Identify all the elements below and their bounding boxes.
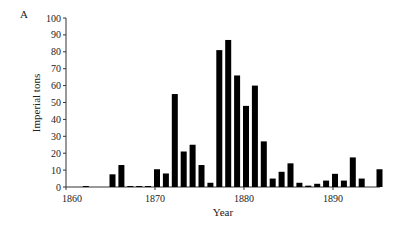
bar bbox=[118, 165, 124, 187]
bar bbox=[377, 169, 383, 187]
bar bbox=[296, 183, 302, 187]
bar bbox=[234, 75, 240, 187]
y-tick-label: 70 bbox=[51, 63, 61, 74]
bar bbox=[216, 50, 222, 187]
bar bbox=[359, 179, 365, 187]
bar bbox=[314, 184, 320, 187]
x-axis: 1860187018801890 bbox=[62, 187, 380, 204]
x-tick-label: 1860 bbox=[62, 193, 82, 204]
bar bbox=[154, 169, 160, 187]
y-tick-label: 80 bbox=[51, 46, 61, 57]
bar bbox=[225, 40, 231, 187]
y-tick-label: 90 bbox=[51, 29, 61, 40]
bar bbox=[172, 94, 178, 187]
bar-chart: 0102030405060708090100 1860187018801890 … bbox=[0, 0, 396, 228]
bar bbox=[190, 145, 196, 187]
y-tick-label: 60 bbox=[51, 80, 61, 91]
bar bbox=[145, 186, 151, 187]
bar bbox=[332, 174, 338, 187]
x-axis-label: Year bbox=[213, 206, 234, 218]
bar bbox=[243, 106, 249, 187]
y-tick-label: 50 bbox=[51, 97, 61, 108]
bar bbox=[270, 179, 276, 187]
bar bbox=[207, 183, 213, 187]
bar bbox=[323, 181, 329, 187]
bar bbox=[181, 152, 187, 187]
y-axis-label: Imperial tons bbox=[30, 74, 42, 132]
bar bbox=[83, 186, 89, 187]
y-tick-label: 30 bbox=[51, 131, 61, 142]
y-tick-label: 10 bbox=[51, 165, 61, 176]
bar bbox=[127, 186, 133, 187]
y-axis: 0102030405060708090100 bbox=[46, 13, 66, 193]
bar bbox=[261, 141, 267, 187]
bar bbox=[252, 86, 258, 187]
bar-series bbox=[83, 40, 383, 187]
y-tick-label: 40 bbox=[51, 114, 61, 125]
chart-canvas: 0102030405060708090100 1860187018801890 … bbox=[0, 0, 396, 228]
bar bbox=[279, 172, 285, 187]
bar bbox=[136, 186, 142, 187]
bar bbox=[199, 165, 205, 187]
y-tick-label: 0 bbox=[56, 182, 61, 193]
x-tick-label: 1870 bbox=[145, 193, 165, 204]
y-tick-label: 100 bbox=[46, 13, 61, 24]
y-tick-label: 20 bbox=[51, 148, 61, 159]
bar bbox=[110, 174, 116, 187]
bar bbox=[305, 186, 311, 187]
x-tick-label: 1880 bbox=[234, 193, 254, 204]
panel-label: A bbox=[20, 8, 28, 20]
bar bbox=[341, 181, 347, 187]
bar bbox=[163, 173, 169, 187]
x-tick-label: 1890 bbox=[323, 193, 343, 204]
bar bbox=[288, 163, 294, 187]
bar bbox=[350, 157, 356, 187]
